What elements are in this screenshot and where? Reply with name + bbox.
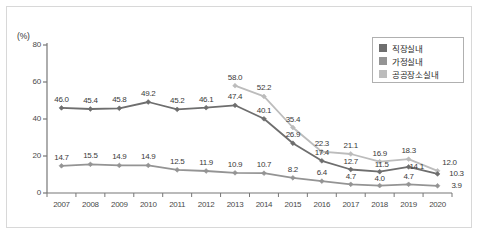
point-value-label: 35.4	[277, 115, 309, 124]
legend-swatch-icon-1	[379, 57, 387, 65]
point-value-label: 12.0	[434, 158, 466, 167]
point-value-label: 8.2	[277, 165, 309, 174]
point-value-label: 52.2	[248, 83, 280, 92]
data-point-marker	[406, 182, 411, 187]
legend-label-1: 가정실내	[392, 55, 423, 67]
point-value-label: 10.7	[248, 160, 280, 169]
chart-legend: 직장실내 가정실내 공공장소실내	[372, 37, 464, 83]
x-tick-label-2014: 2014	[248, 200, 280, 209]
data-point-marker	[262, 171, 267, 176]
data-point-marker	[204, 169, 209, 174]
data-point-marker	[233, 170, 238, 175]
data-point-marker	[233, 83, 238, 88]
point-value-label: 4.7	[393, 172, 425, 181]
point-value-label: 15.5	[74, 151, 106, 160]
point-value-label: 22.3	[306, 139, 338, 148]
x-tick-label-2009: 2009	[103, 200, 135, 209]
data-point-marker	[290, 175, 295, 180]
point-value-label: 6.4	[306, 168, 338, 177]
data-point-marker	[204, 105, 209, 110]
x-tick-label-2010: 2010	[132, 200, 164, 209]
point-value-label: 14.9	[103, 152, 135, 161]
legend-label-0: 직장실내	[392, 42, 423, 54]
point-value-label: 17.4	[306, 148, 338, 157]
point-value-label: 45.8	[103, 95, 135, 104]
point-value-label: 10.9	[219, 160, 251, 169]
data-point-marker	[117, 163, 122, 168]
data-point-marker	[348, 182, 353, 187]
point-value-label: 12.7	[335, 157, 367, 166]
x-tick-label-2018: 2018	[364, 200, 396, 209]
point-value-label: 3.9	[441, 181, 473, 190]
point-value-label: 47.4	[219, 92, 251, 101]
point-value-label: 10.3	[441, 169, 473, 178]
point-value-label: 46.0	[45, 95, 77, 104]
point-value-label: 40.1	[248, 106, 280, 115]
data-point-marker	[319, 179, 324, 184]
point-value-label: 45.2	[161, 96, 193, 105]
point-value-label: 14.1	[401, 162, 433, 171]
x-tick-label-2013: 2013	[219, 200, 251, 209]
data-point-marker	[175, 107, 180, 112]
point-value-label: 11.9	[190, 158, 222, 167]
point-value-label: 49.2	[132, 89, 164, 98]
point-value-label: 4.0	[364, 174, 396, 183]
point-value-label: 4.7	[335, 172, 367, 181]
y-tick-label-60: 60	[10, 77, 41, 86]
point-value-label: 46.1	[190, 95, 222, 104]
data-point-marker	[146, 163, 151, 168]
legend-label-2: 공공장소실내	[392, 68, 438, 80]
x-tick-label-2007: 2007	[45, 200, 77, 209]
data-point-marker	[406, 157, 411, 162]
x-tick-label-2011: 2011	[161, 200, 193, 209]
x-tick-label-2016: 2016	[306, 200, 338, 209]
chart-container: (%) 020406080 20072008200920102011201220…	[0, 0, 479, 242]
data-point-marker	[175, 167, 180, 172]
point-value-label: 16.9	[364, 149, 396, 158]
data-point-marker	[348, 167, 353, 172]
data-point-marker	[59, 163, 64, 168]
x-tick-label-2020: 2020	[422, 200, 454, 209]
point-value-label: 18.3	[393, 146, 425, 155]
legend-item-0[interactable]: 직장실내	[379, 42, 458, 54]
point-value-label: 45.4	[74, 96, 106, 105]
data-point-marker	[59, 106, 64, 111]
point-value-label: 26.9	[277, 130, 309, 139]
data-point-marker	[377, 183, 382, 188]
y-tick-label-20: 20	[10, 151, 41, 160]
legend-item-1[interactable]: 가정실내	[379, 55, 458, 67]
data-point-marker	[88, 162, 93, 167]
legend-swatch-icon-0	[379, 44, 387, 52]
data-point-marker	[435, 172, 440, 177]
y-tick-label-40: 40	[10, 114, 41, 123]
x-tick-label-2015: 2015	[277, 200, 309, 209]
point-value-label: 14.7	[45, 153, 77, 162]
data-point-marker	[117, 106, 122, 111]
x-tick-label-2008: 2008	[74, 200, 106, 209]
data-point-marker	[88, 107, 93, 112]
x-tick-label-2017: 2017	[335, 200, 367, 209]
point-value-label: 14.9	[132, 152, 164, 161]
point-value-label: 21.1	[335, 141, 367, 150]
point-value-label: 12.5	[161, 157, 193, 166]
legend-swatch-icon-2	[379, 70, 387, 78]
y-tick-label-0: 0	[10, 188, 41, 197]
data-point-marker	[435, 183, 440, 188]
legend-item-2[interactable]: 공공장소실내	[379, 68, 458, 80]
x-tick-label-2019: 2019	[393, 200, 425, 209]
point-value-label: 58.0	[219, 73, 251, 82]
x-tick-label-2012: 2012	[190, 200, 222, 209]
point-value-label: 11.5	[366, 160, 398, 169]
y-tick-label-80: 80	[10, 40, 41, 49]
data-point-marker	[146, 100, 151, 105]
